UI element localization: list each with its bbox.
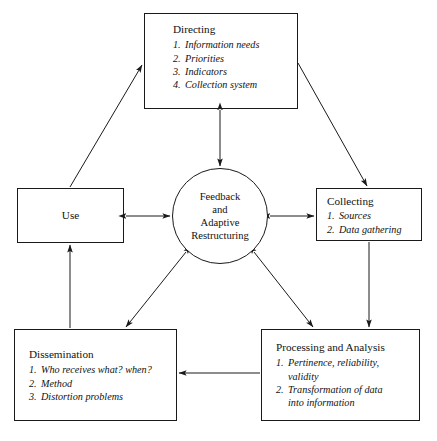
list-item-number: 2. (173, 52, 185, 65)
list-item-text: Who receives what? when? (41, 363, 152, 376)
node-directing[interactable]: Directing 1. Information needs 2. Priori… (144, 13, 298, 109)
list-item-number: 3. (29, 390, 41, 403)
node-collecting-title: Collecting (327, 194, 431, 208)
list-item-text: Method (41, 377, 72, 390)
node-collecting-content: Collecting 1. Sources 2. Data gathering (317, 189, 431, 245)
list-item-text: Collection system (185, 78, 257, 91)
diagram-canvas: Directing 1. Information needs 2. Priori… (0, 0, 437, 441)
list-item: 2. Method (29, 377, 190, 390)
list-item-text: Distortion problems (41, 390, 123, 403)
list-item-number: 2. (327, 223, 339, 236)
list-item: 1. Who receives what? when? (29, 363, 190, 376)
list-item-number: 3. (173, 65, 185, 78)
node-directing-title: Directing (173, 22, 325, 36)
list-item-number: 1. (276, 356, 288, 383)
list-item: 2. Transformation of data into informati… (276, 383, 433, 410)
node-use[interactable]: Use (17, 188, 124, 243)
hub-line-3: Adaptive (201, 216, 240, 229)
hub-line-2: and (212, 203, 227, 216)
node-dissemination-content: Dissemination 1. Who receives what? when… (15, 330, 190, 437)
node-processing-and-analysis[interactable]: Processing and Analysis 1. Pertinence, r… (261, 329, 420, 421)
node-collecting-items: 1. Sources 2. Data gathering (327, 209, 431, 236)
node-processing-title: Processing and Analysis (276, 340, 433, 354)
node-dissemination[interactable]: Dissemination 1. Who receives what? when… (14, 329, 177, 421)
node-collecting[interactable]: Collecting 1. Sources 2. Data gathering (316, 188, 422, 241)
list-item-text: Pertinence, reliability, validity (288, 356, 379, 383)
list-item-text: Indicators (185, 65, 227, 78)
list-item-number: 4. (173, 78, 185, 91)
hub-line-1: Feedback (200, 190, 241, 203)
node-dissemination-items: 1. Who receives what? when? 2. Method 3.… (29, 363, 190, 403)
list-item-number: 2. (29, 377, 41, 390)
node-directing-items: 1. Information needs 2. Priorities 3. In… (173, 38, 325, 91)
list-item-text: Information needs (185, 38, 259, 51)
list-item-text: Sources (339, 209, 371, 222)
list-item-text: Data gathering (339, 223, 402, 236)
list-item: 1. Sources (327, 209, 431, 222)
list-item-number: 1. (327, 209, 339, 222)
list-item: 1. Information needs (173, 38, 325, 51)
node-directing-content: Directing 1. Information needs 2. Priori… (145, 14, 325, 116)
list-item: 1. Pertinence, reliability, validity (276, 356, 433, 383)
list-item-number: 2. (276, 383, 288, 410)
node-processing-items: 1. Pertinence, reliability, validity 2. … (276, 356, 433, 409)
node-use-content: Use (18, 189, 123, 242)
edge-use-to-directing (70, 65, 142, 187)
hub-line-4: Restructuring (191, 229, 249, 242)
node-processing-content: Processing and Analysis 1. Pertinence, r… (262, 330, 433, 430)
list-item: 3. Distortion problems (29, 390, 190, 403)
node-feedback-hub[interactable]: Feedback and Adaptive Restructuring (172, 168, 268, 264)
node-dissemination-title: Dissemination (29, 347, 190, 361)
list-item-text: Priorities (185, 52, 224, 65)
list-item-number: 1. (173, 38, 185, 51)
edge-hub-processing (254, 252, 313, 327)
edge-hub-dissemination (126, 252, 186, 327)
list-item-text: Transformation of data into information (288, 383, 383, 410)
list-item: 3. Indicators (173, 65, 325, 78)
list-item: 2. Priorities (173, 52, 325, 65)
list-item: 2. Data gathering (327, 223, 431, 236)
list-item: 4. Collection system (173, 78, 325, 91)
list-item-number: 1. (29, 363, 41, 376)
node-use-title: Use (62, 208, 79, 222)
